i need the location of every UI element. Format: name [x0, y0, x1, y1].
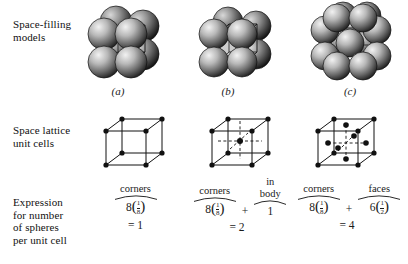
term-head-in-body: in body [260, 176, 281, 199]
term-coefficient: 8 [309, 201, 315, 213]
expression-simple-cubic: corners 8(18) = 1 [88, 183, 183, 231]
term-head-corners: corners [199, 185, 230, 197]
total-simple-cubic: = 1 [88, 219, 183, 231]
panel-caption-c: (c) [330, 85, 370, 97]
term-coefficient: 8 [126, 201, 132, 213]
panel-caption-b: (b) [208, 85, 248, 97]
paren-close: ) [384, 198, 389, 214]
term-body-corners: 8(18) [205, 202, 224, 218]
term-corners: corners 8(18) [114, 183, 158, 216]
space-filling-model-simple-cubic [86, 4, 162, 86]
paren-close: ) [323, 198, 328, 214]
panel-caption-a: (a) [98, 85, 138, 97]
term-head-faces: faces [368, 183, 390, 195]
row-label-space-lattice-unit-cells: Space lattice unit cells [13, 124, 108, 149]
term-row: corners 8(18) + faces 6(12) [290, 183, 408, 216]
term-row: corners 8(18) [88, 183, 183, 216]
operator-plus: + [242, 205, 249, 218]
total-face-centered-cubic: = 4 [286, 219, 408, 231]
term-head-corners: corners [120, 183, 151, 195]
expression-body-centered-cubic: corners 8(18) + in body 1 = 2 [180, 176, 300, 233]
paren-close: ) [219, 200, 224, 216]
term-head-corners: corners [303, 183, 334, 195]
unit-cell-face-centered-cubic [310, 113, 386, 177]
paren-close: ) [140, 198, 145, 214]
term-body-in-body: 1 [267, 205, 273, 218]
unit-cell-body-centered-cubic [204, 113, 276, 177]
operator-plus: + [346, 203, 353, 216]
total-body-centered-cubic: = 2 [174, 221, 300, 233]
term-in-body: in body 1 [253, 176, 287, 218]
expression-face-centered-cubic: corners 8(18) + faces 6(12) = 4 [290, 183, 408, 231]
term-coefficient: 8 [205, 202, 211, 214]
term-body-faces: 6(12) [370, 200, 389, 216]
term-corners: corners 8(18) [193, 185, 237, 218]
space-filling-model-body-centered-cubic [196, 4, 276, 86]
term-corners: corners 8(18) [297, 183, 341, 216]
term-row: corners 8(18) + in body 1 [180, 176, 300, 218]
space-filling-model-face-centered-cubic [303, 0, 401, 88]
term-faces: faces 6(12) [357, 183, 401, 216]
term-body-corners: 8(18) [309, 200, 328, 216]
term-body-corners: 8(18) [126, 200, 145, 216]
crystal-structure-figure: Space-filling models Space lattice unit … [0, 0, 408, 264]
unit-cell-simple-cubic [98, 113, 170, 177]
